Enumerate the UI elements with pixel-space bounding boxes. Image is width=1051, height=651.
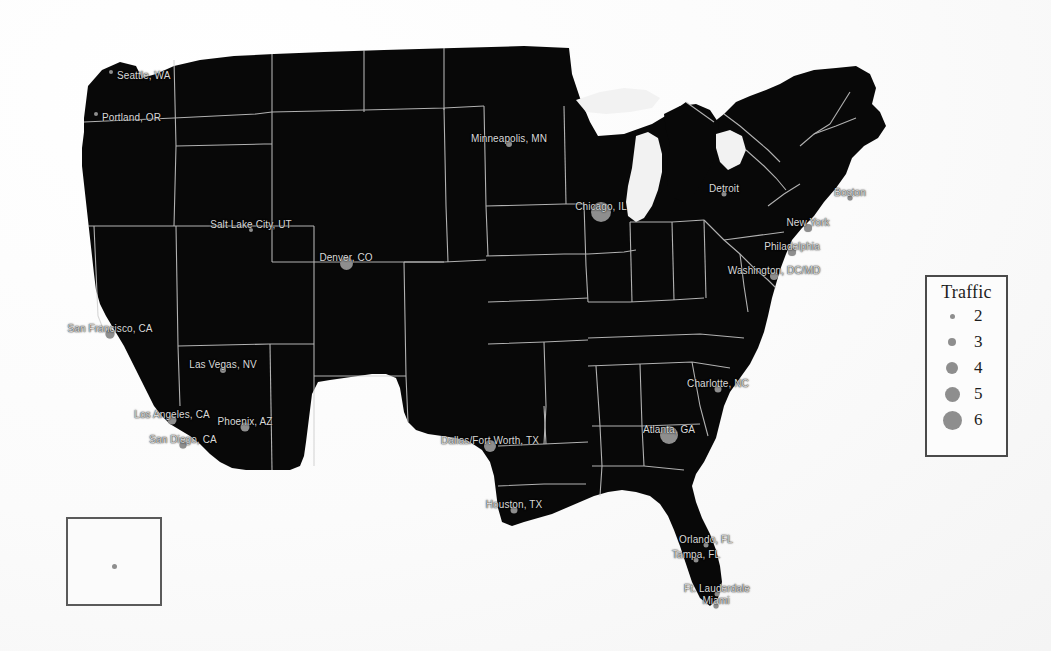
city-marker[interactable]: Orlando, FL xyxy=(701,540,711,550)
legend-value: 4 xyxy=(974,358,983,378)
legend-swatch xyxy=(939,362,965,374)
city-marker[interactable]: Los Angeles, CA xyxy=(167,415,177,425)
map-page: Seattle, WAPortland, ORSalt Lake City, U… xyxy=(0,0,1051,651)
city-dot xyxy=(340,257,353,270)
inset-marker-dot xyxy=(112,564,117,569)
city-marker[interactable]: Charlotte, NC xyxy=(713,384,723,394)
city-marker[interactable]: Seattle, WA xyxy=(106,67,116,77)
city-dot xyxy=(106,330,115,339)
city-dot xyxy=(591,202,611,222)
city-marker[interactable]: New York xyxy=(803,223,813,233)
city-marker[interactable]: Portland, OR xyxy=(91,109,101,119)
city-dot xyxy=(220,367,226,373)
city-marker[interactable]: Houston, TX xyxy=(509,505,519,515)
city-marker[interactable]: Ft. Lauderdale xyxy=(712,589,722,599)
city-marker[interactable]: San Diego, CA xyxy=(178,440,188,450)
city-marker[interactable]: Salt Lake City, UT xyxy=(246,225,256,235)
legend-title: Traffic xyxy=(927,282,1006,303)
city-marker[interactable]: Washington, DC/MD xyxy=(769,271,779,281)
city-marker[interactable]: Minneapolis, MN xyxy=(504,139,514,149)
city-marker[interactable]: Atlanta, GA xyxy=(660,426,678,444)
city-dot xyxy=(770,272,778,280)
city-dot xyxy=(848,196,853,201)
city-dot xyxy=(484,440,496,452)
legend-value: 6 xyxy=(974,410,983,430)
legend-entry: 4 xyxy=(927,355,1006,381)
city-dot xyxy=(511,507,518,514)
lake-superior xyxy=(576,88,660,114)
city-dot xyxy=(249,228,253,232)
city-dot xyxy=(704,543,709,548)
legend-panel[interactable]: Traffic 23456 xyxy=(925,275,1008,457)
legend-value: 5 xyxy=(974,384,983,404)
city-marker[interactable]: San Francisco, CA xyxy=(105,329,115,339)
city-dot xyxy=(788,248,796,256)
city-marker[interactable]: Boston xyxy=(845,193,855,203)
city-dot xyxy=(722,192,727,197)
legend-entry: 5 xyxy=(927,381,1006,407)
city-marker[interactable]: Chicago, IL xyxy=(591,202,611,222)
legend-entry: 6 xyxy=(927,407,1006,433)
city-marker[interactable]: Miami xyxy=(711,601,721,611)
legend-value: 3 xyxy=(974,332,983,352)
city-dot xyxy=(180,442,187,449)
legend-entry: 2 xyxy=(927,303,1006,329)
city-dot xyxy=(109,70,113,74)
city-marker[interactable]: Las Vegas, NV xyxy=(218,365,228,375)
legend-swatch xyxy=(939,314,965,319)
city-dot xyxy=(715,386,722,393)
city-marker[interactable]: Denver, CO xyxy=(340,257,353,270)
city-dot xyxy=(506,141,512,147)
city-dot xyxy=(660,426,678,444)
city-dot xyxy=(168,416,177,425)
city-marker[interactable]: Phoenix, AZ xyxy=(240,422,250,432)
legend-swatch xyxy=(939,387,965,402)
city-dot xyxy=(694,558,699,563)
legend-value: 2 xyxy=(974,306,983,326)
legend-entry: 3 xyxy=(927,329,1006,355)
legend-entry-list: 23456 xyxy=(927,303,1006,433)
city-marker[interactable]: Detroit xyxy=(719,189,729,199)
city-dot xyxy=(804,224,812,232)
city-marker[interactable]: Philadelphia xyxy=(787,247,797,257)
city-dot xyxy=(715,592,720,597)
legend-swatch xyxy=(939,411,965,430)
inset-panel[interactable] xyxy=(66,517,162,606)
city-dot xyxy=(241,423,250,432)
city-marker[interactable]: Tampa, FL xyxy=(691,555,701,565)
landmass-group xyxy=(82,46,886,606)
city-marker[interactable]: Dallas/Fort Worth, TX xyxy=(484,440,496,452)
city-dot xyxy=(714,604,719,609)
legend-swatch xyxy=(939,338,965,346)
city-dot xyxy=(94,112,98,116)
